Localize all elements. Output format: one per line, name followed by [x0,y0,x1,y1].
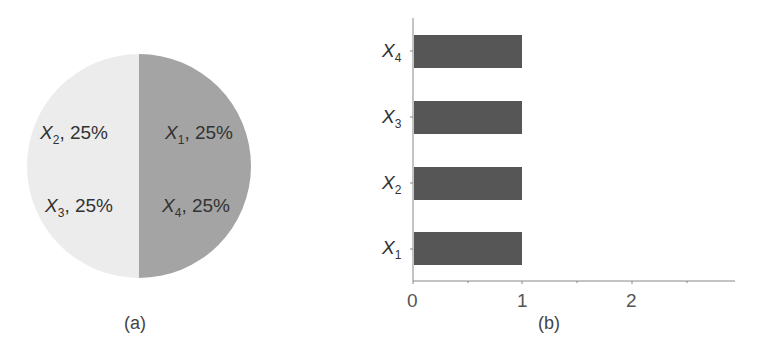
y-label-x1: X1 [381,237,402,262]
x-tick-label-2: 2 [626,290,637,311]
pie-slice-right-half [139,54,251,278]
y-label-x3: X3 [381,106,402,131]
bar-x2 [414,167,522,200]
pie-slice-left-half [27,54,139,278]
pie-chart: X1, 25% X2, 25% X3, 25% X4, 25% (a) [27,54,251,333]
caption-b: (b) [538,313,560,333]
y-label-x4: X4 [381,40,402,65]
bar-x3 [414,101,522,134]
bar-chart: X4 X3 X2 X1 0 1 2 (b) [381,18,735,333]
figure: X1, 25% X2, 25% X3, 25% X4, 25% (a) X4 X… [0,0,761,353]
y-label-x2: X2 [381,172,402,197]
x-tick-label-0: 0 [407,290,418,311]
caption-a: (a) [124,313,146,333]
bar-x4 [414,35,522,68]
bar-x1 [414,232,522,265]
x-tick-label-1: 1 [517,290,528,311]
